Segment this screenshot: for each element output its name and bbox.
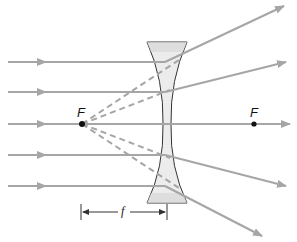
diverging-lens bbox=[147, 42, 187, 203]
right-focal-point bbox=[251, 121, 256, 126]
diverging-lens-diagram: F F f bbox=[0, 0, 297, 242]
left-focal-label: F bbox=[77, 106, 85, 119]
incident-rays bbox=[8, 62, 165, 186]
right-focal-label: F bbox=[250, 106, 258, 119]
left-focal-point bbox=[79, 121, 85, 127]
ray-diagram-canvas bbox=[0, 0, 297, 242]
focal-length-label: f bbox=[119, 205, 126, 217]
